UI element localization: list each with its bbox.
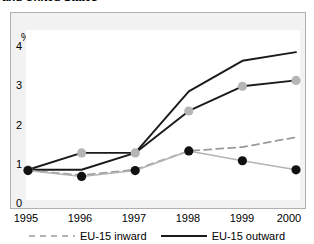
y-tick-4: 4	[4, 41, 22, 51]
x-tick-1995: 1995	[3, 212, 49, 224]
data-point	[77, 148, 86, 157]
chart-title: and United States	[2, 0, 312, 3]
series-line-3	[28, 151, 296, 176]
data-point	[184, 146, 193, 155]
legend-item-eu15-inward: EU-15 inward	[29, 230, 147, 242]
data-point	[238, 156, 247, 165]
y-tick-3: 3	[4, 80, 22, 90]
data-point	[238, 82, 247, 91]
series-line-0	[28, 52, 296, 170]
legend-label-eu15-outward: EU-15 outward	[212, 230, 285, 242]
dashed-line-icon	[29, 232, 75, 240]
x-tick-1998: 1998	[165, 212, 211, 224]
legend-label-eu15-inward: EU-15 inward	[80, 230, 147, 242]
data-point	[131, 166, 140, 175]
legend-item-eu15-outward: EU-15 outward	[161, 230, 285, 242]
y-tick-2: 2	[4, 120, 22, 130]
chart-legend: EU-15 inward EU-15 outward	[0, 230, 314, 242]
data-point	[184, 106, 193, 115]
solid-line-icon	[161, 232, 207, 240]
data-point	[23, 166, 32, 175]
plot-area	[26, 30, 300, 200]
x-tick-1999: 1999	[219, 212, 265, 224]
chart-figure: and United States % 4 3 2 1 0 1995 1996 …	[0, 0, 314, 244]
series-line-1	[28, 80, 296, 169]
x-tick-2000: 2000	[266, 212, 312, 224]
data-point	[131, 148, 140, 157]
x-tick-1997: 1997	[111, 212, 157, 224]
data-point	[291, 76, 300, 85]
y-axis-labels: 4 3 2 1 0	[0, 0, 22, 244]
x-tick-1996: 1996	[57, 212, 103, 224]
y-tick-0: 0	[4, 198, 22, 208]
series-canvas	[26, 30, 300, 200]
y-tick-1: 1	[4, 159, 22, 169]
data-point	[77, 172, 86, 181]
data-point	[291, 165, 300, 174]
